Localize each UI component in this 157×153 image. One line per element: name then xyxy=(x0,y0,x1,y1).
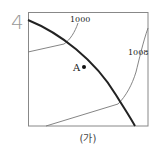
isobar-label-1008: 1008 xyxy=(128,48,148,57)
point-a-label: A xyxy=(72,62,81,73)
question-number: 4 xyxy=(11,10,24,34)
figure-caption: (가) xyxy=(80,133,97,144)
isobar-1000 xyxy=(28,23,78,52)
isobar-label-1000: 1000 xyxy=(70,15,90,24)
weather-map-figure: 4 1000 1008 A (가) xyxy=(0,0,157,153)
front-line xyxy=(28,20,135,126)
point-a-marker xyxy=(82,65,86,69)
isobar-1008 xyxy=(46,28,148,126)
